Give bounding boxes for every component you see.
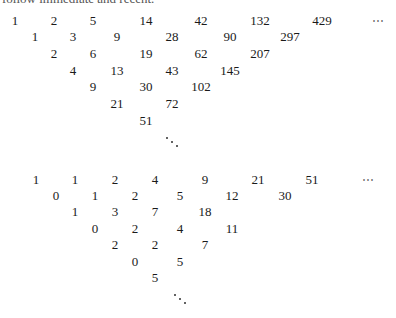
cell: 30 (279, 189, 292, 203)
cell: 5 (152, 271, 159, 285)
cell: 2 (152, 238, 159, 252)
diagonal-continuation-ellipsis (173, 293, 187, 305)
cell: 4 (152, 173, 159, 187)
cell: 2 (132, 222, 139, 236)
cell: 3 (112, 205, 119, 219)
cell: 1 (72, 205, 79, 219)
cell: 51 (306, 173, 319, 187)
cell: 2 (132, 189, 139, 203)
row-continuation-ellipsis: ⋯ (362, 173, 375, 187)
cell: 11 (226, 222, 239, 236)
cell: 18 (199, 205, 212, 219)
cell: 0 (132, 255, 139, 269)
cell: 12 (226, 189, 239, 203)
cell: 2 (112, 238, 119, 252)
cell: 5 (177, 255, 184, 269)
cell: 1 (33, 173, 40, 187)
cell: 21 (252, 173, 265, 187)
cell: 0 (53, 189, 60, 203)
cell: 5 (177, 189, 184, 203)
cell: 1 (72, 173, 79, 187)
cell: 1 (92, 189, 99, 203)
cell: 9 (202, 173, 209, 187)
cell: 7 (152, 205, 159, 219)
cell: 2 (112, 173, 119, 187)
cell: 7 (202, 238, 209, 252)
number-triangle-bottom: 1 1 2 4 9 21 51 ⋯ 0 1 2 5 12 30 1 3 7 18… (0, 0, 396, 318)
cell: 4 (177, 222, 184, 236)
cell: 0 (92, 222, 99, 236)
